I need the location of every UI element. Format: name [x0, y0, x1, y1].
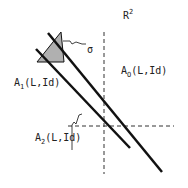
label-a1: A1(L,Id) [14, 78, 60, 88]
space-label: R2 [123, 11, 133, 21]
label-a1-args: (L,Id) [24, 77, 60, 88]
label-a2-args: (L,Id) [45, 132, 81, 143]
space-label-sup: 2 [129, 8, 133, 16]
sigma-label: σ [87, 45, 93, 55]
sigma-leader [63, 41, 86, 44]
line-a0 [48, 33, 162, 172]
diagram-svg [0, 0, 188, 188]
label-a0-args: (L,Id) [131, 65, 167, 76]
label-a2-sub: 2 [41, 138, 45, 146]
diagram-canvas: σ R2 A1(L,Id) AO(L,Id) A2(L,Id) [0, 0, 188, 188]
label-a0-sub: O [127, 71, 131, 79]
label-a2: A2(L,Id) [35, 133, 81, 143]
label-a0: AO(L,Id) [121, 66, 167, 76]
label-a1-sub: 1 [20, 83, 24, 91]
